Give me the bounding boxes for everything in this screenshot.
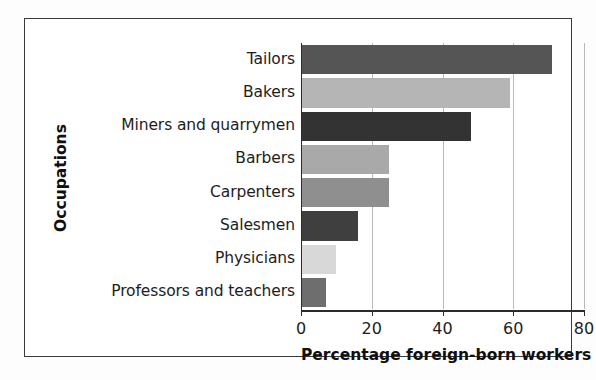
y-axis-label: Bakers (243, 83, 295, 101)
x-tick-label: 0 (281, 319, 321, 338)
x-tick-mark-40 (443, 310, 444, 316)
bar (301, 278, 326, 307)
bar-row (301, 276, 584, 309)
x-tick-label: 60 (493, 319, 533, 338)
gridline-80 (584, 43, 585, 309)
figure-frame: Occupations TailorsBakersMiners and quar… (24, 18, 572, 357)
y-axis-label: Salesmen (220, 216, 295, 234)
bar-row (301, 76, 584, 109)
bar-row (301, 110, 584, 143)
bar-row (301, 143, 584, 176)
x-tick-mark-20 (372, 310, 373, 316)
chart-figure: Occupations TailorsBakersMiners and quar… (0, 0, 596, 380)
bar (301, 211, 358, 240)
y-axis-label: Professors and teachers (111, 282, 295, 300)
x-tick-label: 40 (423, 319, 463, 338)
bar (301, 78, 510, 107)
bar-row (301, 176, 584, 209)
y-axis-label: Tailors (247, 50, 295, 68)
y-axis-label: Miners and quarrymen (121, 116, 295, 134)
y-axis-label: Physicians (215, 249, 295, 267)
y-axis-category-labels: TailorsBakersMiners and quarrymenBarbers… (65, 43, 295, 309)
y-axis-label: Carpenters (210, 183, 295, 201)
bar (301, 145, 389, 174)
bar-row (301, 243, 584, 276)
bar (301, 178, 389, 207)
bar (301, 45, 552, 74)
x-axis-title: Percentage foreign-born workers (301, 346, 591, 364)
plot-area (301, 43, 584, 309)
x-tick-label: 80 (564, 319, 596, 338)
x-tick-mark-80 (584, 310, 585, 316)
y-axis-line (301, 43, 302, 313)
x-tick-mark-60 (513, 310, 514, 316)
bar-row (301, 209, 584, 242)
y-axis-label: Barbers (235, 149, 295, 167)
bar-row (301, 43, 584, 76)
x-tick-label: 20 (352, 319, 392, 338)
x-tick-mark-0 (301, 310, 302, 316)
bar (301, 245, 336, 274)
bar (301, 112, 471, 141)
